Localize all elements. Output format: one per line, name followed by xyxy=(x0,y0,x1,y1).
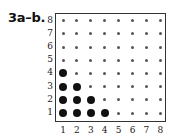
y-tick-label: 7 xyxy=(45,28,53,38)
lattice-point xyxy=(145,112,148,115)
lattice-point xyxy=(159,72,162,75)
x-tick-label: 8 xyxy=(155,125,165,135)
highlighted-point xyxy=(59,109,67,117)
plot-frame xyxy=(55,13,166,122)
lattice-point xyxy=(145,46,148,49)
y-tick-label: 6 xyxy=(45,41,53,51)
y-tick-label: 1 xyxy=(45,107,53,117)
highlighted-point xyxy=(73,96,81,104)
lattice-point xyxy=(159,46,162,49)
problem-label: 3a–b. xyxy=(8,10,45,25)
x-tick-label: 3 xyxy=(86,125,96,135)
lattice-point xyxy=(131,72,134,75)
lattice-point xyxy=(145,85,148,88)
highlighted-point xyxy=(59,96,67,104)
lattice-point xyxy=(103,59,106,62)
lattice-point xyxy=(131,46,134,49)
x-tick-label: 4 xyxy=(100,125,110,135)
x-tick-label: 1 xyxy=(58,125,68,135)
highlighted-point xyxy=(101,109,109,117)
lattice-point xyxy=(145,72,148,75)
lattice-point xyxy=(159,112,162,115)
lattice-point xyxy=(159,85,162,88)
highlighted-point xyxy=(73,109,81,117)
lattice-point xyxy=(131,112,134,115)
x-tick-label: 6 xyxy=(128,125,138,135)
lattice-point xyxy=(159,59,162,62)
highlighted-point xyxy=(73,83,81,91)
lattice-point xyxy=(89,46,92,49)
lattice-point xyxy=(145,59,148,62)
y-tick-label: 5 xyxy=(45,54,53,64)
lattice-point xyxy=(131,59,134,62)
y-tick-label: 3 xyxy=(45,81,53,91)
x-tick-label: 2 xyxy=(72,125,82,135)
x-tick-label: 7 xyxy=(141,125,151,135)
lattice-point xyxy=(62,59,65,62)
x-tick-label: 5 xyxy=(114,125,124,135)
highlighted-point xyxy=(59,83,67,91)
lattice-point xyxy=(62,46,65,49)
y-tick-label: 4 xyxy=(45,67,53,77)
y-tick-label: 8 xyxy=(45,15,53,25)
lattice-point xyxy=(117,59,120,62)
lattice-point xyxy=(103,46,106,49)
y-tick-label: 2 xyxy=(45,94,53,104)
lattice-point xyxy=(62,19,65,22)
lattice-point xyxy=(117,112,120,115)
lattice-point xyxy=(62,32,65,35)
lattice-point xyxy=(117,72,120,75)
lattice-point xyxy=(117,46,120,49)
highlighted-point xyxy=(87,109,95,117)
highlighted-point xyxy=(87,96,95,104)
lattice-point xyxy=(159,19,162,22)
lattice-point xyxy=(145,19,148,22)
